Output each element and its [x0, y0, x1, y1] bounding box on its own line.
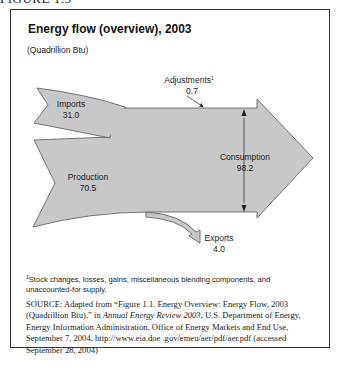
source-citation: SOURCE: Adapted from “Figure 1.1. Energy…	[26, 299, 322, 356]
adjustments-value: 0.7	[186, 86, 198, 96]
production-label: Production	[68, 172, 109, 182]
production-value: 70.5	[80, 183, 97, 193]
imports-label: Imports	[57, 99, 85, 109]
footnote: 1Stock changes, losses, gains, miscellan…	[26, 272, 316, 295]
source-publication-title: Annual Energy Review 2003,	[103, 310, 203, 320]
source-prefix: SOURCE:	[26, 299, 62, 309]
exports-flow-shape	[146, 212, 200, 243]
footnote-text: Stock changes, losses, gains, miscellane…	[26, 275, 270, 294]
exports-value: 4.0	[213, 244, 225, 254]
imports-value: 31.0	[63, 110, 80, 120]
consumption-value: 98.2	[237, 163, 254, 173]
adjustments-pointer-arrow	[187, 96, 202, 106]
exports-label: Exports	[205, 233, 234, 243]
consumption-label: Consumption	[220, 152, 270, 162]
adjustments-label: Adjustments1	[164, 75, 214, 85]
